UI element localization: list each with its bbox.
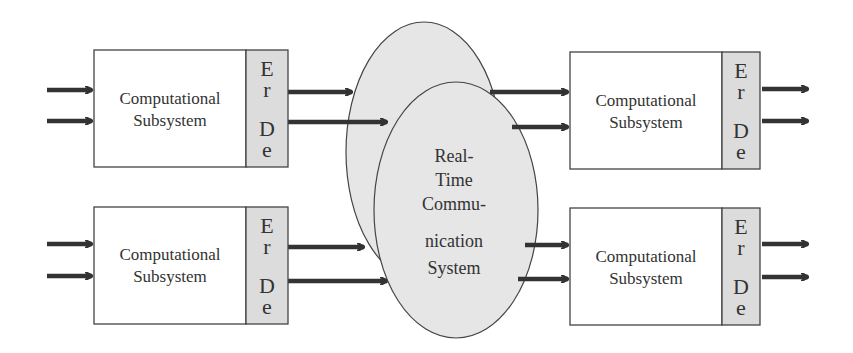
comm-label-line3: Commu- [422, 194, 486, 214]
diagram-canvas: Computational Subsystem E r D e Computat… [0, 0, 853, 353]
subsystem-label-line1: Computational [595, 91, 696, 110]
comm-label-line2: Time [435, 170, 472, 190]
strip-letter-e: e [262, 294, 272, 319]
comm-label-line5: System [427, 258, 480, 278]
bottom-left-input-arrows [47, 244, 92, 276]
strip-letter-r: r [263, 77, 271, 102]
subsystem-label-line2: Subsystem [609, 269, 683, 288]
top-right-output-arrows [762, 89, 808, 121]
top-left-input-arrows [47, 90, 92, 121]
strip-letter-e: e [736, 295, 746, 320]
subsystem-label-line1: Computational [595, 247, 696, 266]
subsystem-box-bottom-left: Computational Subsystem E r D e [94, 207, 288, 324]
subsystem-box-top-right: Computational Subsystem E r D e [570, 52, 760, 169]
subsystem-box-top-left: Computational Subsystem E r D e [94, 50, 288, 167]
subsystem-label-line2: Subsystem [609, 113, 683, 132]
bottom-left-output-arrows [288, 247, 387, 281]
subsystem-label-line2: Subsystem [133, 267, 207, 286]
strip-letter-r: r [737, 235, 745, 260]
comm-label-line1: Real- [435, 146, 474, 166]
strip-letter-r: r [263, 234, 271, 259]
strip-letter-e: e [262, 137, 272, 162]
subsystem-label-line1: Computational [119, 245, 220, 264]
comm-label-line4: nication [425, 231, 483, 251]
subsystem-label-line2: Subsystem [133, 111, 207, 130]
bottom-right-output-arrows [762, 244, 808, 277]
subsystem-label-line1: Computational [119, 89, 220, 108]
strip-letter-e: e [736, 139, 746, 164]
subsystem-box-bottom-right: Computational Subsystem E r D e [570, 208, 760, 325]
strip-letter-r: r [737, 79, 745, 104]
